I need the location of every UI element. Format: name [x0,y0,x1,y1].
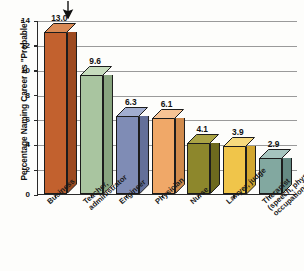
bar-front-face [44,32,67,194]
y-axis-title: Percentage Naming Career as "Probable" [19,10,29,190]
bar-top-face [187,134,210,143]
bar [80,75,103,194]
bar-value-label: 6.1 [149,99,185,109]
bar-top-face [80,66,103,75]
y-tick-label: 4 [8,140,30,149]
y-tick-mark [34,170,38,171]
y-tick-label: 0 [8,190,30,199]
y-tick-label: 10 [8,66,30,75]
bar-top-face [44,23,67,32]
bar-value-label: 13.0 [41,13,77,23]
bar-top-face [116,107,139,116]
bar-side-face [210,143,219,194]
bar-value-label: 6.3 [113,97,149,107]
bar-front-face [80,75,103,194]
bar-front-face [187,143,210,194]
y-tick-mark [34,145,38,146]
bar-top-face [259,149,282,158]
bar-value-label: 2.9 [256,139,292,149]
bar-top-face [152,109,175,118]
bar-top-face [223,137,246,146]
y-tick-label: 6 [8,115,30,124]
y-tick-label: 14 [8,16,30,25]
y-tick-mark [34,195,38,196]
bar-value-label: 9.6 [77,56,113,66]
y-tick-mark [34,45,38,46]
bar-value-label: 4.1 [184,124,220,134]
bar-side-face [67,32,76,194]
bar [44,32,67,194]
clipped-title [4,0,184,2]
y-tick-label: 12 [8,41,30,50]
y-tick-mark [34,95,38,96]
y-tick-label: 8 [8,91,30,100]
chart-figure: Percentage Naming Career as "Probable" 0… [0,0,304,271]
y-tick-mark [34,70,38,71]
y-tick-label: 2 [8,165,30,174]
y-tick-mark [34,120,38,121]
bar [187,143,210,194]
y-tick-mark [34,21,38,22]
bar-value-label: 3.9 [220,127,256,137]
